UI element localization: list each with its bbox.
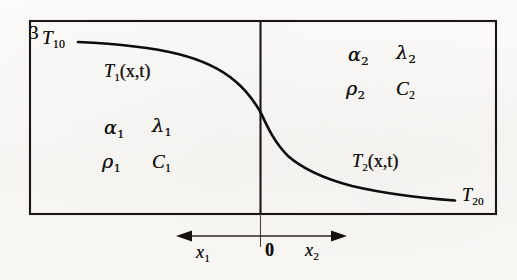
symbol-lambda: λ <box>152 114 164 136</box>
property-thermal-conductivity-medium-1: λ1 <box>152 116 172 135</box>
property-thermal-conductivity-medium-2: λ2 <box>396 43 416 62</box>
axis-arrow-right <box>331 231 347 242</box>
subscript-2: 2 <box>357 88 365 102</box>
subscript-20: 20 <box>472 195 484 207</box>
axis-label-x1: x1 <box>196 243 210 261</box>
subscript-1: 1 <box>113 161 121 175</box>
label-initial-temperature-medium-1: T10 <box>42 28 65 47</box>
subscript-2: 2 <box>409 89 415 102</box>
subscript-10: 10 <box>53 38 65 51</box>
argument-xt: (x,t) <box>120 61 151 81</box>
symbol-C: C <box>152 151 165 172</box>
subscript-2: 2 <box>313 250 319 262</box>
symbol-alpha: α <box>104 116 117 138</box>
subscript-2: 2 <box>361 54 369 68</box>
axis-label-x2: x2 <box>305 241 319 259</box>
property-thermal-diffusivity-medium-1: α1 <box>104 118 125 137</box>
axis-arrow-left <box>176 231 192 242</box>
symbol-lambda: λ <box>396 41 408 63</box>
symbol-T: T <box>352 151 362 171</box>
symbol-T: T <box>42 27 53 48</box>
property-density-medium-2: ρ2 <box>346 79 365 98</box>
label-temperature-field-medium-2: T2(x,t) <box>352 152 398 170</box>
label-temperature-field-medium-1: T1(x,t) <box>104 62 150 80</box>
subscript-2: 2 <box>408 52 416 66</box>
property-thermal-diffusivity-medium-2: α2 <box>348 45 369 64</box>
symbol-rho: ρ <box>346 77 357 99</box>
symbol-T: T <box>462 185 472 205</box>
property-specific-heat-medium-2: C2 <box>396 79 415 98</box>
label-initial-temperature-medium-2: T20 <box>462 186 484 204</box>
symbol-alpha: α <box>348 43 361 65</box>
argument-xt: (x,t) <box>368 151 399 171</box>
subscript-1: 1 <box>114 71 120 83</box>
property-specific-heat-medium-1: C1 <box>152 152 171 171</box>
symbol-C: C <box>396 78 409 99</box>
subscript-1: 1 <box>165 162 171 175</box>
heat-conduction-figure: 3 T10 T1(x,t) α1 λ1 ρ1 C1 α2 λ2 ρ2 C2 T2… <box>0 0 517 280</box>
symbol-x: x <box>305 240 313 260</box>
subscript-2: 2 <box>362 161 368 173</box>
figure-number: 3 <box>29 23 39 42</box>
symbol-T: T <box>104 61 114 81</box>
diagram-canvas <box>0 0 517 280</box>
axis-origin-label: 0 <box>265 241 274 259</box>
property-density-medium-1: ρ1 <box>102 152 121 171</box>
symbol-rho: ρ <box>102 150 113 172</box>
subscript-1: 1 <box>204 252 210 264</box>
subscript-1: 1 <box>117 127 125 141</box>
symbol-x: x <box>196 242 204 262</box>
subscript-1: 1 <box>164 125 172 139</box>
